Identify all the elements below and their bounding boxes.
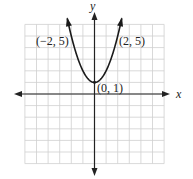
x-axis-right-arrow-icon [162,91,170,97]
point-label-vertex: (0, 1) [97,82,123,94]
y-axis-label: y [90,0,95,12]
x-axis-label: x [176,88,181,100]
vertex-point [93,81,96,84]
y-axis-down-arrow-icon [92,168,98,176]
y-axis-up-arrow-icon [92,12,98,20]
point-label-left: (−2, 5) [36,35,69,47]
point-label-right: (2, 5) [119,35,145,47]
x-axis [14,91,170,97]
x-axis-left-arrow-icon [14,91,22,97]
